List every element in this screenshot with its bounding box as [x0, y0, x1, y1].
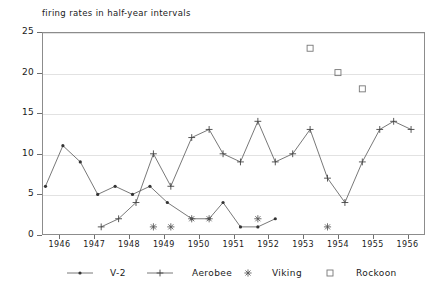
- marker-plus: [376, 126, 383, 133]
- marker-dot: [79, 160, 82, 163]
- legend-marker-asterisk: [233, 263, 263, 283]
- marker-square: [327, 270, 333, 276]
- marker-asterisk: [254, 215, 261, 222]
- marker-dot: [148, 185, 151, 188]
- legend-marker-dot: [65, 263, 95, 283]
- marker-asterisk: [324, 223, 331, 230]
- legend-label: Viking: [272, 268, 302, 278]
- marker-square: [307, 45, 313, 51]
- legend-marker-plus: [145, 263, 175, 283]
- marker-dot: [274, 217, 277, 220]
- marker-plus: [390, 118, 397, 125]
- marker-plus: [254, 118, 261, 125]
- marker-plus: [206, 126, 213, 133]
- marker-asterisk: [244, 269, 251, 276]
- marker-dot: [131, 193, 134, 196]
- marker-plus: [220, 150, 227, 157]
- series-line: [45, 146, 275, 227]
- marker-plus: [188, 134, 195, 141]
- marker-dot: [78, 271, 81, 274]
- marker-dot: [239, 225, 242, 228]
- marker-square: [335, 70, 341, 76]
- marker-dot: [61, 144, 64, 147]
- marker-dot: [221, 201, 224, 204]
- marker-plus: [359, 159, 366, 166]
- marker-plus: [307, 126, 314, 133]
- series-v-2: [44, 144, 277, 228]
- series-layer: [0, 0, 443, 295]
- chart-figure: firing rates in half-year intervals 0510…: [0, 0, 443, 295]
- legend-label: V-2: [110, 268, 126, 278]
- series-line: [101, 121, 411, 227]
- marker-plus: [237, 159, 244, 166]
- legend-marker-square: [315, 263, 345, 283]
- marker-plus: [324, 175, 331, 182]
- series-aerobee: [98, 118, 415, 230]
- marker-asterisk: [188, 215, 195, 222]
- marker-plus: [98, 223, 105, 230]
- marker-asterisk: [167, 223, 174, 230]
- marker-asterisk: [150, 223, 157, 230]
- marker-plus: [150, 150, 157, 157]
- marker-dot: [114, 185, 117, 188]
- marker-asterisk: [206, 215, 213, 222]
- series-rockoon: [307, 45, 365, 92]
- marker-dot: [96, 193, 99, 196]
- marker-plus: [157, 270, 164, 277]
- marker-square: [359, 86, 365, 92]
- marker-dot: [166, 201, 169, 204]
- marker-plus: [342, 199, 349, 206]
- legend-label: Rockoon: [356, 268, 397, 278]
- marker-plus: [167, 183, 174, 190]
- marker-plus: [408, 126, 415, 133]
- marker-dot: [256, 225, 259, 228]
- marker-plus: [289, 150, 296, 157]
- chart-legend: V-2AerobeeVikingRockoon: [0, 263, 443, 289]
- legend-label: Aerobee: [192, 268, 232, 278]
- marker-dot: [44, 185, 47, 188]
- marker-plus: [272, 159, 279, 166]
